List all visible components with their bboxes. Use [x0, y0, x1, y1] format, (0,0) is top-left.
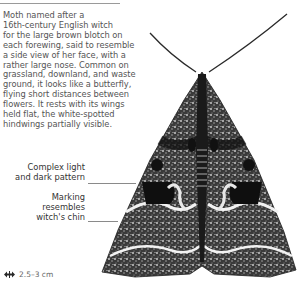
wingspan-label: 2.5–3 cm	[19, 270, 53, 279]
description-line: hindwings partially visible.	[3, 120, 153, 130]
wingspan-size: 2.5–3 cm	[4, 270, 53, 279]
wingspan-arrows-icon	[4, 271, 15, 278]
antenna-right-icon	[209, 14, 287, 72]
species-description: Moth named after a 16th-century English …	[3, 11, 153, 130]
callout-chin: Marking resembles witch's chin	[0, 193, 85, 223]
leader-line-pattern	[88, 183, 136, 184]
callout-line: and dark pattern	[0, 173, 85, 183]
callout-pattern: Complex light and dark pattern	[0, 163, 85, 183]
antenna-left-icon	[150, 33, 196, 72]
callout-line: witch's chin	[0, 213, 85, 223]
leader-line-chin	[88, 221, 118, 222]
